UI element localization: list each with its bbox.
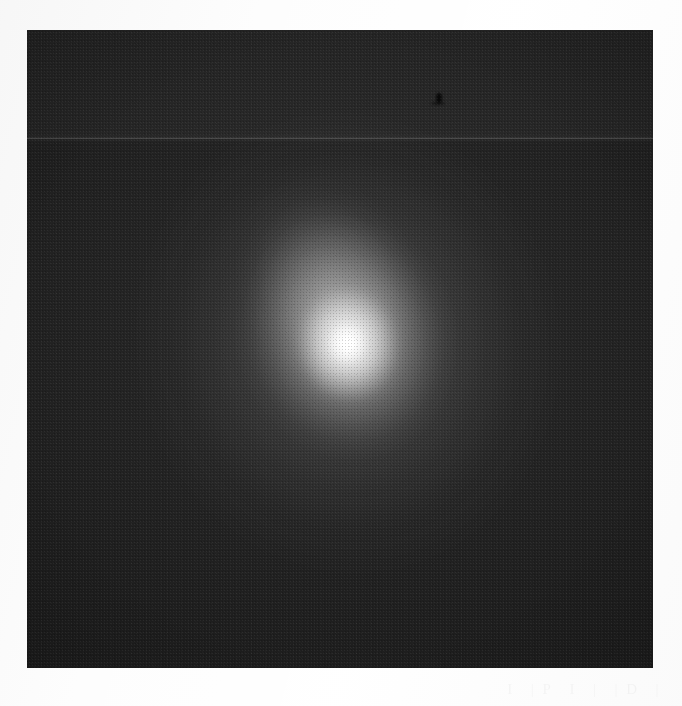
ghost-caption-fragment: | [593, 681, 599, 698]
ghost-caption-fragment: | D [614, 681, 639, 698]
astronomical-plate-image [27, 30, 653, 668]
ghost-caption: I | P I | | D | [27, 678, 667, 700]
ghost-caption-fragment: I [569, 681, 577, 698]
source-nucleus [340, 336, 355, 351]
ghost-caption-fragment: I [507, 681, 515, 698]
ghost-caption-fragment: | P [531, 681, 554, 698]
page-canvas: I | P I | | D | [0, 0, 682, 706]
ghost-caption-fragment: | [655, 681, 661, 698]
emulsion-blemish-tail [431, 102, 445, 105]
